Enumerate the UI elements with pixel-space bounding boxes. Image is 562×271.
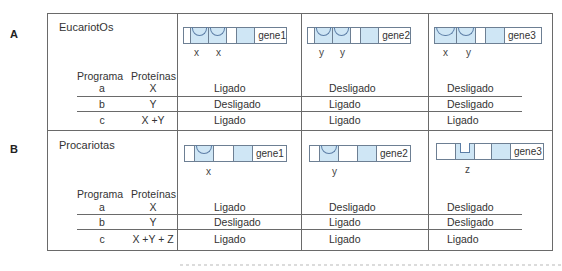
state-gene3: Desligado	[447, 216, 494, 228]
row-divider	[77, 111, 522, 112]
cropped-caption	[180, 262, 562, 271]
row-divider	[77, 229, 522, 230]
binding-site-x	[196, 145, 212, 154]
state-gene2: Desligado	[329, 82, 376, 94]
header-proteins: Proteínas	[131, 188, 176, 200]
gene3-label: gene3	[505, 28, 536, 43]
binding-site-y	[334, 27, 349, 36]
site-label: y	[319, 47, 324, 58]
state-gene2: Ligado	[329, 114, 361, 126]
binding-site-x	[192, 27, 207, 36]
gene2-label: gene2	[379, 28, 410, 43]
proteins-a: X	[131, 201, 175, 213]
state-gene1: Desligado	[214, 98, 261, 110]
binding-site-y	[458, 27, 474, 36]
gene2-diagram: gene2	[307, 27, 411, 44]
state-gene3: Desligado	[447, 98, 494, 110]
state-gene3: Desligado	[447, 82, 494, 94]
panel-letter-a: A	[10, 28, 18, 40]
binding-site-y	[321, 145, 337, 154]
gene3-diagram: gene3	[436, 143, 544, 160]
site-label: y	[332, 166, 337, 177]
state-gene2: Ligado	[329, 98, 361, 110]
site-label: x	[443, 47, 448, 58]
site-label: x	[194, 47, 199, 58]
site-label: y	[466, 47, 471, 58]
gene1-diagram: gene1	[184, 145, 287, 162]
site-label: x	[206, 166, 211, 177]
binding-site-y	[316, 27, 331, 36]
gene2-label: gene2	[377, 146, 408, 161]
program-c: c	[77, 114, 127, 126]
panel-divider	[47, 130, 553, 131]
state-gene1: Ligado	[214, 114, 246, 126]
program-a: a	[77, 82, 127, 94]
header-proteins: Proteínas	[131, 70, 176, 82]
state-gene2: Ligado	[329, 233, 361, 245]
gene2-diagram: gene2	[309, 145, 411, 162]
proteins-b: Y	[131, 216, 175, 228]
gene1-label: gene1	[255, 28, 286, 43]
column-divider	[301, 13, 302, 251]
row-divider	[77, 214, 522, 215]
state-gene3: Ligado	[447, 233, 479, 245]
panel-a-title: EucariotOs	[59, 21, 113, 33]
state-gene1: Ligado	[214, 201, 246, 213]
binding-site-x	[210, 27, 225, 36]
proteins-b: Y	[131, 98, 175, 110]
panel-b-title: Procariotas	[59, 139, 115, 151]
program-a: a	[77, 201, 127, 213]
state-gene2: Desligado	[329, 201, 376, 213]
state-gene1: Ligado	[214, 82, 246, 94]
program-b: b	[77, 216, 127, 228]
gene1-diagram: gene1	[183, 27, 287, 44]
binding-site-z	[460, 143, 470, 153]
gene3-diagram: gene3	[434, 27, 542, 44]
column-divider	[177, 13, 178, 251]
state-gene2: Ligado	[329, 216, 361, 228]
column-divider	[428, 13, 429, 251]
gene3-label: gene3	[511, 144, 542, 159]
program-c: c	[77, 233, 127, 245]
header-program: Programa	[77, 70, 123, 82]
state-gene3: Ligado	[447, 114, 479, 126]
proteins-a: X	[131, 82, 175, 94]
proteins-c: X +Y	[131, 114, 175, 126]
site-label: x	[216, 47, 221, 58]
program-b: b	[77, 98, 127, 110]
binding-site-x	[436, 27, 455, 36]
state-gene3: Desligado	[447, 201, 494, 213]
state-gene1: Ligado	[214, 233, 246, 245]
state-gene1: Desligado	[214, 216, 261, 228]
panel-letter-b: B	[10, 143, 18, 155]
site-label: z	[465, 164, 470, 175]
site-label: y	[340, 47, 345, 58]
row-divider	[77, 96, 522, 97]
proteins-c: X +Y + Z	[131, 233, 175, 245]
gene1-label: gene1	[253, 146, 284, 161]
header-program: Programa	[77, 188, 123, 200]
